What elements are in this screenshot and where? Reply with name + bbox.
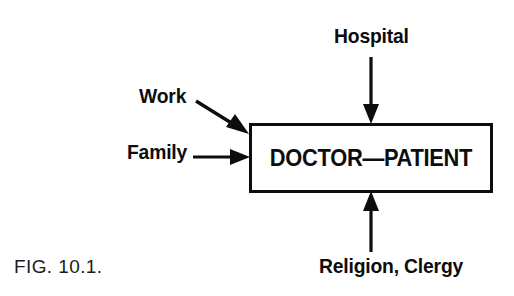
label-doctor-patient: DOCTOR—PATIENT bbox=[256, 124, 486, 192]
hospital-arrow bbox=[363, 57, 379, 124]
family-arrow bbox=[193, 149, 250, 165]
work-arrow bbox=[196, 101, 249, 134]
figure-caption: FIG. 10.1. bbox=[14, 256, 102, 278]
religion-arrow bbox=[363, 191, 379, 252]
label-work: Work bbox=[139, 85, 186, 106]
label-hospital: Hospital bbox=[334, 25, 409, 46]
label-family: Family bbox=[127, 141, 187, 162]
label-religion: Religion, Clergy bbox=[319, 255, 463, 276]
figure-container: Hospital Work Family Religion, Clergy DO… bbox=[0, 0, 514, 296]
